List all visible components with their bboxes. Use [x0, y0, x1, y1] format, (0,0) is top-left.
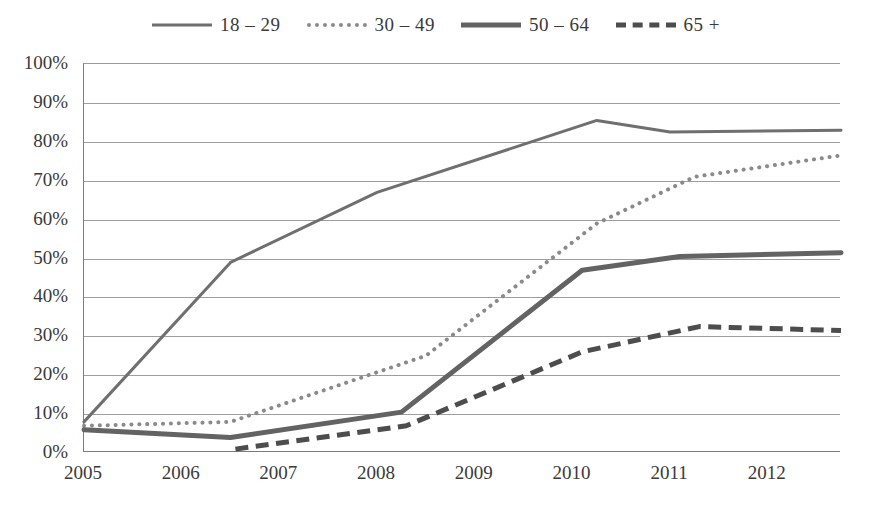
y-tick-label: 80%	[33, 130, 68, 152]
solid-bold-line-swatch-icon	[461, 18, 521, 32]
x-tick-label: 2005	[64, 462, 102, 484]
x-axis: 20052006200720082009201020112012	[0, 462, 872, 502]
legend-item-65-plus: 65 +	[616, 14, 720, 36]
solid-medium-line-swatch-icon	[152, 18, 212, 32]
y-tick-label: 30%	[33, 324, 68, 346]
y-tick-label: 0%	[43, 441, 68, 463]
line-chart: 18 – 29 30 – 49 50 – 64 65 + 0%10%20%30%…	[0, 0, 872, 517]
dotted-line-swatch-icon	[307, 18, 367, 32]
y-tick-label: 40%	[33, 285, 68, 307]
series-line-1	[84, 155, 841, 425]
series-line-0	[84, 120, 841, 421]
series-line-2	[84, 253, 841, 438]
plot-area	[83, 63, 840, 452]
legend-label-18-29: 18 – 29	[220, 14, 281, 36]
legend-label-50-64: 50 – 64	[529, 14, 590, 36]
y-tick-label: 50%	[33, 247, 68, 269]
x-tick-label: 2008	[357, 462, 395, 484]
legend-label-30-49: 30 – 49	[375, 14, 436, 36]
series-layer	[84, 64, 841, 453]
x-tick-label: 2006	[162, 462, 200, 484]
legend-item-18-29: 18 – 29	[152, 14, 281, 36]
series-line-3	[235, 327, 841, 450]
legend-label-65-plus: 65 +	[684, 14, 720, 36]
y-tick-label: 10%	[33, 402, 68, 424]
dashed-line-swatch-icon	[616, 18, 676, 32]
y-tick-label: 90%	[33, 91, 68, 113]
legend-item-50-64: 50 – 64	[461, 14, 590, 36]
x-tick-label: 2011	[650, 462, 687, 484]
x-tick-label: 2010	[552, 462, 590, 484]
y-tick-label: 60%	[33, 208, 68, 230]
legend-item-30-49: 30 – 49	[307, 14, 436, 36]
x-tick-label: 2007	[259, 462, 297, 484]
chart-legend: 18 – 29 30 – 49 50 – 64 65 +	[0, 14, 872, 36]
y-tick-label: 20%	[33, 363, 68, 385]
y-axis: 0%10%20%30%40%50%60%70%80%90%100%	[0, 0, 78, 517]
x-tick-label: 2012	[748, 462, 786, 484]
y-tick-label: 100%	[24, 52, 68, 74]
x-tick-label: 2009	[455, 462, 493, 484]
y-tick-label: 70%	[33, 169, 68, 191]
